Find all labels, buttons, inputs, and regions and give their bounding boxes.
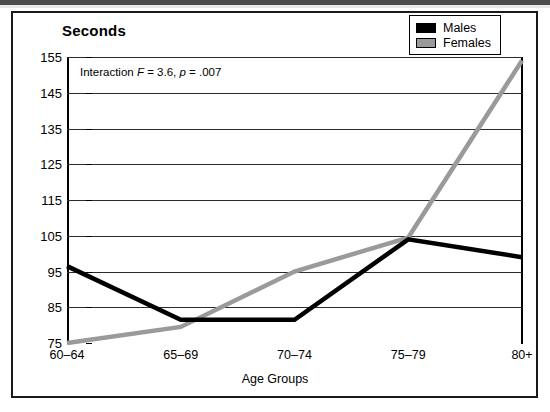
y-tick-label-95: 95 bbox=[28, 264, 62, 279]
legend-label-males: Males bbox=[443, 21, 476, 35]
legend-item-males: Males bbox=[416, 20, 491, 35]
gridline-85 bbox=[67, 307, 522, 308]
gridline-95 bbox=[67, 272, 522, 273]
chart-title: Seconds bbox=[62, 22, 126, 39]
x-tick-label-0: 60–64 bbox=[50, 348, 85, 362]
annotation-f-symbol: F bbox=[137, 66, 144, 78]
x-tick-label-4: 80+ bbox=[511, 348, 532, 362]
gridline-135 bbox=[67, 129, 522, 130]
y-tick-mark-75 bbox=[86, 343, 92, 344]
y-tick-mark-125 bbox=[86, 164, 92, 165]
y-tick-mark-155 bbox=[86, 57, 92, 58]
y-tick-label-125: 125 bbox=[28, 157, 62, 172]
x-tick-label-1: 65–69 bbox=[163, 348, 198, 362]
x-tick-label-3: 75–79 bbox=[391, 348, 426, 362]
y-tick-label-85: 85 bbox=[28, 300, 62, 315]
y-tick-label-105: 105 bbox=[28, 228, 62, 243]
legend-label-females: Females bbox=[443, 36, 491, 50]
legend-item-females: Females bbox=[416, 35, 491, 50]
chart-legend: Males Females bbox=[409, 15, 501, 55]
y-tick-mark-135 bbox=[86, 129, 92, 130]
legend-swatch-males bbox=[416, 23, 436, 33]
legend-swatch-females bbox=[416, 38, 436, 48]
y-tick-mark-115 bbox=[86, 200, 92, 201]
statistics-annotation: Interaction F = 3.6, p = .007 bbox=[80, 66, 221, 78]
y-tick-label-135: 135 bbox=[28, 121, 62, 136]
y-tick-label-155: 155 bbox=[28, 50, 62, 65]
x-axis-title: Age Groups bbox=[0, 372, 550, 386]
gridline-105 bbox=[67, 236, 522, 237]
y-tick-label-115: 115 bbox=[28, 193, 62, 208]
y-tick-mark-95 bbox=[86, 272, 92, 273]
figure-container: Seconds Interaction F = 3.6, p = .007 75… bbox=[0, 0, 550, 412]
gridline-115 bbox=[67, 200, 522, 201]
y-tick-mark-85 bbox=[86, 307, 92, 308]
y-tick-label-145: 145 bbox=[28, 85, 62, 100]
annotation-f-value: = 3.6, bbox=[144, 66, 179, 78]
y-tick-mark-105 bbox=[86, 236, 92, 237]
annotation-prefix: Interaction bbox=[80, 66, 137, 78]
x-tick-label-2: 70–74 bbox=[277, 348, 312, 362]
scan-edge-artifact-light bbox=[0, 5, 550, 8]
gridline-125 bbox=[67, 164, 522, 165]
y-tick-mark-145 bbox=[86, 93, 92, 94]
annotation-p-value: = .007 bbox=[186, 66, 222, 78]
gridline-145 bbox=[67, 93, 522, 94]
gridline-155 bbox=[67, 57, 522, 58]
